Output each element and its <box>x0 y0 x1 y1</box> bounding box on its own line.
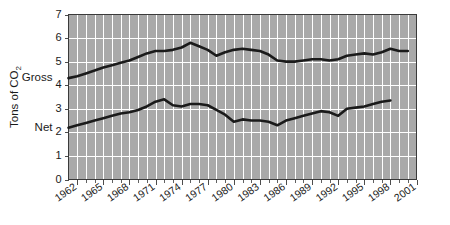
x-tick-label: 1977 <box>183 180 209 203</box>
co2-emissions-line-chart: 01234567 1962196519681971197419771980198… <box>0 0 450 225</box>
y-tick-label: 2 <box>55 125 61 137</box>
x-tick-label: 1989 <box>287 180 313 203</box>
x-tick-label: 1971 <box>131 180 157 203</box>
x-axis-ticks <box>78 180 418 185</box>
y-tick-label: 3 <box>55 102 61 114</box>
y-tick-label: 4 <box>55 78 61 90</box>
series-label-net: Net <box>35 121 54 133</box>
x-tick-label: 1965 <box>78 180 104 203</box>
x-tick-label: 1995 <box>339 180 365 203</box>
y-tick-label: 6 <box>55 31 61 43</box>
x-tick-label: 1980 <box>209 180 235 203</box>
x-tick-label: 1974 <box>157 180 183 203</box>
y-axis-title-group: Tons of CO2 <box>8 65 23 128</box>
series-inline-labels: GrossNet <box>22 71 53 132</box>
series-label-gross: Gross <box>22 71 53 83</box>
y-axis-title-main: Tons of CO <box>8 70 20 128</box>
y-tick-label: 0 <box>55 173 61 185</box>
x-tick-label: 1998 <box>366 180 392 203</box>
x-axis-tick-labels: 1962196519681971197419771980198319861989… <box>52 180 417 203</box>
chart-canvas: 01234567 1962196519681971197419771980198… <box>0 0 450 225</box>
x-tick-label: 2001 <box>392 180 418 203</box>
x-tick-label: 1968 <box>105 180 131 203</box>
y-tick-label: 5 <box>55 55 61 67</box>
y-axis-title-subscript: 2 <box>14 65 23 70</box>
y-axis-ticks <box>65 16 69 181</box>
y-axis-tick-labels: 01234567 <box>55 8 61 185</box>
y-tick-label: 7 <box>55 8 61 20</box>
y-axis-title: Tons of CO2 <box>8 65 23 128</box>
y-tick-label: 1 <box>55 149 61 161</box>
x-tick-label: 1992 <box>313 180 339 203</box>
x-tick-label: 1983 <box>235 180 261 203</box>
x-tick-label: 1986 <box>261 180 287 203</box>
